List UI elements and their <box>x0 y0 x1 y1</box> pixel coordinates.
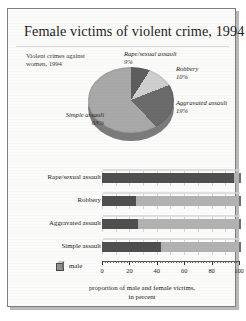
axis-tick-minor <box>198 261 199 263</box>
axis-tick-minor <box>154 261 155 263</box>
axis-tick-minor <box>206 261 207 263</box>
bar-stack <box>102 242 239 252</box>
pie-label-name: Robbery <box>176 65 198 72</box>
axis-tick-minor <box>234 261 235 263</box>
axis-tick-major <box>239 261 240 265</box>
pie-label-pct: 9% <box>124 58 177 66</box>
axis-tick-minor <box>181 261 182 263</box>
axis-tick-minor <box>107 261 108 263</box>
axis-tick-minor <box>162 261 163 263</box>
pie-label-name: Rape/sexual assault <box>124 50 177 57</box>
axis-tick-minor <box>151 261 152 263</box>
axis-tick-major <box>212 261 213 265</box>
axis-tick-major <box>129 261 130 265</box>
bar-stack <box>102 219 239 229</box>
axis-tick-minor <box>236 261 237 263</box>
bar-track <box>102 194 242 209</box>
axis-tick-minor <box>116 261 117 263</box>
axis-tick-minor <box>160 261 161 263</box>
bar-row: Simple assault <box>16 238 229 261</box>
axis-tick-minor <box>171 261 172 263</box>
figure-root: Female victims of violent crime, 1994 Vi… <box>0 0 246 321</box>
axis-tick-minor <box>190 261 191 263</box>
pie-label-simple-assault: Simple assault 63% <box>30 111 104 127</box>
axis-tick-minor <box>228 261 229 263</box>
bar-x-caption-line: proportion of male and female victims, <box>62 283 222 292</box>
bar-track <box>102 217 242 232</box>
pie-label-rape-sexual-assault: Rape/sexual assault 9% <box>124 50 177 66</box>
axis-tick-minor <box>138 261 139 263</box>
bar-category-label: Simple assault <box>62 242 101 249</box>
axis-tick-minor <box>214 261 215 263</box>
axis-tick-minor <box>118 261 119 263</box>
axis-tick-minor <box>165 261 166 263</box>
axis-tick-minor <box>132 261 133 263</box>
axis-tick-minor <box>203 261 204 263</box>
axis-tick-minor <box>225 261 226 263</box>
bar-3d-side <box>239 219 241 229</box>
bar-3d-side <box>239 242 241 252</box>
bar-3d-side <box>239 196 241 206</box>
bar-segment-female <box>102 242 161 252</box>
bar-row: Aggravated assault <box>16 215 229 238</box>
bar-row: Rape/sexual assault <box>16 169 229 192</box>
axis-tick-minor <box>168 261 169 263</box>
axis-tick-minor <box>143 261 144 263</box>
axis-tick-minor <box>110 261 111 263</box>
bar-track <box>102 240 242 255</box>
bar-track <box>102 171 242 186</box>
axis-tick-major <box>157 261 158 265</box>
axis-tick-minor <box>223 261 224 263</box>
axis-tick-minor <box>201 261 202 263</box>
axis-tick-minor <box>149 261 150 263</box>
bar-chart-panel: Rape/sexual assaultRobberyAggravated ass… <box>16 161 229 307</box>
pie-label-name: Simple assault <box>66 111 104 118</box>
axis-tick-minor <box>124 261 125 263</box>
axis-tick-label: 0 <box>100 267 103 274</box>
axis-tick-minor <box>121 261 122 263</box>
axis-tick-label: 20 <box>126 267 132 274</box>
axis-tick-minor <box>220 261 221 263</box>
bar-stack <box>102 173 239 183</box>
axis-tick-minor <box>127 261 128 263</box>
pie-label-pct: 19% <box>176 107 227 115</box>
axis-tick-label: 80 <box>208 267 214 274</box>
axis-tick-label: 100 <box>234 267 244 274</box>
axis-tick-minor <box>231 261 232 263</box>
axis-tick-minor <box>217 261 218 263</box>
figure-title: Female victims of violent crime, 1994 <box>24 23 224 40</box>
bar-3d-top <box>103 215 240 217</box>
bar-legend-label: male <box>69 262 82 269</box>
axis-tick-label: 60 <box>181 267 187 274</box>
axis-tick-minor <box>140 261 141 263</box>
bar-3d-top <box>103 238 240 240</box>
axis-tick-minor <box>105 261 106 263</box>
bar-segment-female <box>102 219 138 229</box>
axis-tick-minor <box>209 261 210 263</box>
bar-segment-male <box>138 219 239 229</box>
pie-chart-panel: Violent crimes against women, 1994 Rape/… <box>16 47 229 160</box>
pie-label-aggravated-assault: Aggravated assault 19% <box>176 99 227 115</box>
pie-label-pct: 10% <box>176 73 198 81</box>
bar-segment-female <box>102 196 136 206</box>
bar-category-label: Robbery <box>78 196 101 203</box>
bar-stack <box>102 196 239 206</box>
bar-category-label: Rape/sexual assault <box>48 173 101 180</box>
bar-3d-top <box>103 192 240 194</box>
pie-label-robbery: Robbery 10% <box>176 65 198 81</box>
bar-3d-top <box>103 169 240 171</box>
bar-3d-side <box>239 173 241 183</box>
bar-segment-male <box>161 242 239 252</box>
pie-label-name: Aggravated assault <box>176 99 227 106</box>
bar-rows: Rape/sexual assaultRobberyAggravated ass… <box>16 169 229 261</box>
axis-tick-minor <box>135 261 136 263</box>
bar-x-caption-line: in percent <box>62 292 222 301</box>
axis-tick-minor <box>146 261 147 263</box>
pie-label-pct: 63% <box>30 119 104 127</box>
axis-tick-minor <box>179 261 180 263</box>
bar-legend: male <box>56 261 82 269</box>
axis-tick-minor <box>113 261 114 263</box>
bar-x-caption: proportion of male and female victims,in… <box>62 283 222 301</box>
axis-tick-minor <box>173 261 174 263</box>
bar-category-label: Aggravated assault <box>49 219 101 226</box>
